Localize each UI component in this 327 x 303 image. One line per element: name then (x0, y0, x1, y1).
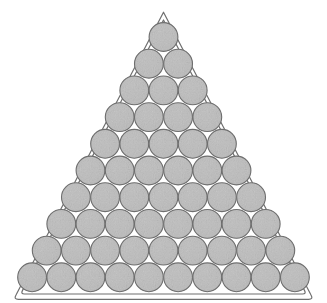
circle (120, 236, 149, 265)
circle (120, 183, 149, 212)
circle-row (120, 76, 207, 105)
circle (135, 156, 164, 185)
circle (62, 183, 91, 212)
circle (237, 236, 266, 265)
circle (178, 183, 207, 212)
circle (62, 236, 91, 265)
circle (135, 263, 164, 292)
circle (105, 210, 134, 239)
circle (164, 210, 193, 239)
circle (208, 129, 237, 158)
circle (91, 236, 120, 265)
figure-canvas (0, 0, 327, 303)
circle (105, 103, 134, 132)
circle (76, 210, 105, 239)
circle (135, 103, 164, 132)
circle (47, 210, 76, 239)
circle (149, 76, 178, 105)
circle (76, 156, 105, 185)
circle (120, 76, 149, 105)
circle (251, 210, 280, 239)
triangle-packing-diagram (0, 0, 327, 303)
circle (120, 129, 149, 158)
circle (164, 156, 193, 185)
circle (91, 183, 120, 212)
circle (149, 183, 178, 212)
circle (222, 263, 251, 292)
circle (193, 156, 222, 185)
circle (178, 236, 207, 265)
circle (149, 23, 178, 52)
circle-row (32, 236, 294, 265)
circle-row (91, 129, 237, 158)
circle (208, 236, 237, 265)
circle (164, 103, 193, 132)
circle-row (149, 23, 178, 52)
circle (178, 129, 207, 158)
circle (105, 156, 134, 185)
circle (135, 210, 164, 239)
circle (193, 103, 222, 132)
circle (164, 49, 193, 78)
circle (149, 236, 178, 265)
circle (149, 129, 178, 158)
circle (222, 210, 251, 239)
circle (178, 76, 207, 105)
circle (135, 49, 164, 78)
circle (222, 156, 251, 185)
circle (47, 263, 76, 292)
circle (193, 210, 222, 239)
circle (91, 129, 120, 158)
circle (237, 183, 266, 212)
circle (266, 236, 295, 265)
circle (251, 263, 280, 292)
circle (32, 236, 61, 265)
circle (281, 263, 310, 292)
circle (193, 263, 222, 292)
circle (164, 263, 193, 292)
circle (18, 263, 47, 292)
circle (208, 183, 237, 212)
circle (76, 263, 105, 292)
circle (105, 263, 134, 292)
